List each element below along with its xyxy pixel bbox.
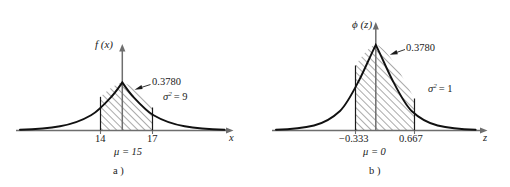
panel-a-peak-annotation: 0.3780	[152, 77, 181, 88]
panel-a-variance-exponent: 2	[168, 90, 172, 98]
panel-b-z-axis-label: z	[483, 133, 487, 144]
panel-a-caption: a )	[113, 166, 124, 177]
panel-b-shaded-area	[353, 42, 417, 132]
panel-a-x-axis-label: x	[229, 133, 234, 144]
panel-a-tick-label-left: 14	[95, 134, 106, 145]
panel-a-variance-label: σ2= 9	[163, 92, 188, 103]
panel-a-y-axis-label: f (x)	[95, 39, 113, 50]
panel-b-variance-value: = 1	[439, 83, 453, 94]
panel-a-mean-label: μ = 15	[114, 147, 142, 158]
panel-a-leader-arrow	[135, 85, 143, 90]
panel-b-y-axis-arrow	[373, 22, 379, 30]
panel-a-y-axis-arrow	[119, 44, 125, 52]
panel-b-mean-label: μ = 0	[363, 147, 386, 158]
normal-distribution-figure: f (x) 0.3780 σ2= 9 14 17 μ = 15 x a ) ϕ …	[0, 0, 510, 187]
panel-a-plot	[16, 44, 234, 134]
panel-b-peak-annotation: 0.3780	[406, 43, 435, 54]
panel-b-caption: b )	[369, 166, 380, 177]
panel-b-plot	[272, 22, 488, 134]
panel-b-tick-label-right: 0.667	[399, 134, 423, 145]
panel-a-variance-value: = 9	[174, 91, 188, 102]
panel-b-leader-arrow	[390, 50, 398, 55]
panel-b-variance-exponent: 2	[433, 82, 437, 90]
panel-a-tick-label-right: 17	[147, 134, 158, 145]
panel-b-variance-label: σ2= 1	[428, 84, 453, 95]
panel-b-tick-label-left: −0.333	[339, 134, 369, 145]
panel-a-shaded-area	[98, 78, 156, 132]
panel-b-y-axis-label: ϕ (z)	[352, 19, 372, 30]
